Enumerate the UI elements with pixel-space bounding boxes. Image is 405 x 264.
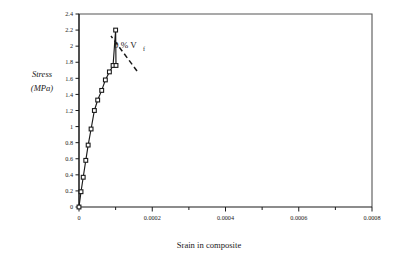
chart-background bbox=[0, 0, 405, 264]
data-point-marker bbox=[103, 78, 107, 82]
y-axis-title-line2: (MPa) bbox=[31, 83, 54, 93]
data-point-marker bbox=[114, 28, 118, 32]
y-tick-label: 2 bbox=[70, 42, 73, 49]
x-axis-title: Srain in composite bbox=[177, 240, 242, 250]
y-tick-label: 0.8 bbox=[65, 139, 73, 146]
x-tick-label: 0 bbox=[77, 214, 80, 221]
chart-svg: 00.20.40.60.811.21.41.61.822.22.4 00.000… bbox=[0, 0, 405, 264]
y-tick-label: 1.8 bbox=[65, 58, 73, 65]
x-tick-label: 0.0006 bbox=[290, 214, 307, 221]
data-point-marker bbox=[96, 98, 100, 102]
data-point-marker bbox=[84, 158, 88, 162]
data-point-marker bbox=[108, 70, 112, 74]
data-point-marker bbox=[86, 143, 90, 147]
data-point-marker bbox=[79, 190, 83, 194]
y-tick-label: 1 bbox=[70, 123, 73, 130]
data-point-marker bbox=[114, 64, 118, 68]
y-tick-label: 1.6 bbox=[65, 75, 73, 82]
x-tick-label: 0.0004 bbox=[217, 214, 234, 221]
data-point-marker bbox=[81, 175, 85, 179]
data-point-marker bbox=[100, 89, 104, 93]
annotation-label: 0 % V bbox=[114, 40, 137, 50]
y-tick-label: 0.4 bbox=[65, 171, 73, 178]
annotation-label-subscript: f bbox=[143, 46, 145, 52]
x-tick-label: 0.0008 bbox=[363, 214, 380, 221]
x-tick-label: 0.0002 bbox=[144, 214, 161, 221]
y-tick-label: 2.4 bbox=[65, 10, 73, 17]
y-tick-label: 1.2 bbox=[65, 107, 73, 114]
data-point-marker bbox=[77, 205, 81, 209]
y-tick-label: 0.2 bbox=[65, 187, 73, 194]
y-axis-title-line1: Stress bbox=[32, 69, 53, 79]
data-point-marker bbox=[92, 109, 96, 113]
y-tick-label: 0 bbox=[70, 203, 73, 210]
y-tick-label: 0.6 bbox=[65, 155, 73, 162]
data-point-marker bbox=[89, 127, 93, 131]
stress-strain-chart: 00.20.40.60.811.21.41.61.822.22.4 00.000… bbox=[0, 0, 405, 264]
y-tick-label: 2.2 bbox=[65, 26, 73, 33]
y-tick-label: 1.4 bbox=[65, 91, 73, 98]
